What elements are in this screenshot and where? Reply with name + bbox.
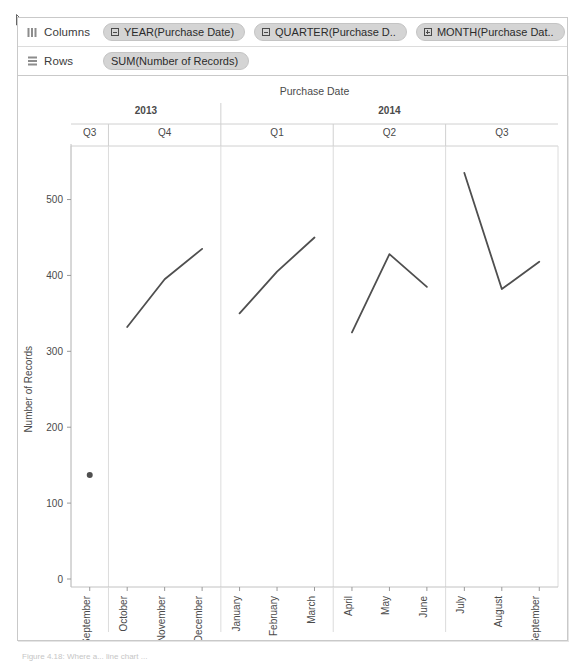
x-axis-label-December-3: December <box>193 595 204 640</box>
y-axis-tick-label-400: 400 <box>46 270 63 281</box>
shelf-area: Columns YEAR(Purchase Date) QUARTER(Purc… <box>17 17 568 75</box>
x-axis-label-February-5: February <box>268 596 279 636</box>
header-year-2014: 2014 <box>378 105 401 116</box>
columns-shelf[interactable]: Columns YEAR(Purchase Date) QUARTER(Purc… <box>18 18 567 47</box>
x-axis-label-July-10: July <box>455 596 466 614</box>
x-axis-label-January-4: January <box>231 596 242 632</box>
y-axis-tick-label-200: 200 <box>46 422 63 433</box>
x-axis-label-June-9: June <box>418 596 429 618</box>
pill-quarter-purchase-date[interactable]: QUARTER(Purchase D.. <box>254 23 407 41</box>
pill-label: SUM(Number of Records) <box>111 52 238 70</box>
line-segment-2013-Q4[interactable] <box>127 249 202 327</box>
pill-label: YEAR(Purchase Date) <box>124 23 234 41</box>
line-chart[interactable]: Purchase Date20132014Q3Q4Q1Q2Q3010020030… <box>18 76 567 640</box>
data-point-September[interactable] <box>87 472 93 478</box>
columns-shelf-label-text: Columns <box>44 26 90 38</box>
y-axis-tick-label-0: 0 <box>57 574 63 585</box>
line-segment-2014-Q1[interactable] <box>240 237 315 313</box>
pill-month-purchase-date[interactable]: MONTH(Purchase Dat.. <box>416 23 565 41</box>
line-segment-2014-Q3[interactable] <box>464 173 539 289</box>
y-axis-tick-label-300: 300 <box>46 346 63 357</box>
x-axis-label-May-8: May <box>380 596 391 615</box>
rows-shelf-label: Rows <box>18 55 103 67</box>
header-quarter-Q4: Q4 <box>158 127 172 138</box>
rows-shelf-label-text: Rows <box>44 55 73 67</box>
pill-sum-number-of-records[interactable]: SUM(Number of Records) <box>103 52 249 70</box>
rows-shelf[interactable]: Rows SUM(Number of Records) <box>18 47 567 76</box>
figure-caption: Figure 4.18: Where a... line chart ... <box>22 652 322 664</box>
pill-label: MONTH(Purchase Dat.. <box>437 23 554 41</box>
chart-view: Purchase Date20132014Q3Q4Q1Q2Q3010020030… <box>17 75 568 641</box>
x-axis-label-August-11: August <box>493 596 504 627</box>
columns-shelf-icon <box>27 27 38 38</box>
columns-shelf-label: Columns <box>18 26 103 38</box>
x-axis-label-September-12: September <box>530 595 541 640</box>
y-axis-tick-label-500: 500 <box>46 194 63 205</box>
y-axis-tick-label-100: 100 <box>46 498 63 509</box>
x-axis-label-November-2: November <box>156 595 167 640</box>
plus-box-icon[interactable] <box>424 28 432 36</box>
y-axis-title: Number of Records <box>23 346 34 433</box>
minus-box-icon[interactable] <box>111 28 119 36</box>
rows-shelf-icon <box>27 56 38 67</box>
header-year-2013: 2013 <box>135 105 158 116</box>
header-quarter-Q3: Q3 <box>83 127 97 138</box>
minus-box-icon[interactable] <box>262 28 270 36</box>
x-axis-label-September-0: September <box>81 595 92 640</box>
header-quarter-Q2: Q2 <box>383 127 397 138</box>
x-axis-label-March-6: March <box>306 596 317 624</box>
line-segment-2014-Q2[interactable] <box>352 254 427 332</box>
chart-title: Purchase Date <box>280 85 350 97</box>
x-axis-label-April-7: April <box>343 596 354 616</box>
header-quarter-Q1: Q1 <box>270 127 284 138</box>
pill-year-purchase-date[interactable]: YEAR(Purchase Date) <box>103 23 245 41</box>
pill-label: QUARTER(Purchase D.. <box>275 23 396 41</box>
x-axis-label-October-1: October <box>118 595 129 631</box>
header-quarter-Q3: Q3 <box>495 127 509 138</box>
